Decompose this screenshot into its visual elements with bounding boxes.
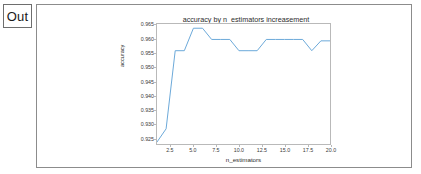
x-tick-label: 5.0: [189, 147, 196, 153]
y-tick-label: 0.940: [128, 93, 154, 99]
x-tick-label: 2.5: [166, 147, 173, 153]
x-axis-label: n_estimators: [156, 156, 331, 163]
y-axis-tick-labels: 0.9250.9300.9350.9400.9450.9500.9550.960…: [126, 23, 154, 145]
y-axis-label: accuracy: [119, 45, 125, 67]
x-tick-mark: [308, 145, 309, 147]
line-series-svg: [157, 24, 330, 144]
x-tick-label: 12.5: [257, 147, 267, 153]
y-tick-mark: [154, 67, 156, 68]
y-tick-mark: [154, 139, 156, 140]
y-tick-label: 0.965: [128, 21, 154, 27]
y-tick-mark: [154, 124, 156, 125]
x-tick-mark: [170, 145, 171, 147]
y-tick-mark: [154, 39, 156, 40]
y-tick-mark: [154, 110, 156, 111]
x-tick-label: 10.0: [234, 147, 244, 153]
y-tick-mark: [154, 82, 156, 83]
y-tick-label: 0.925: [128, 136, 154, 142]
output-prompt-label: Out: [3, 4, 32, 28]
y-tick-label: 0.950: [128, 64, 154, 70]
output-panel: accuracy by n_estimators increasement 0.…: [36, 4, 412, 168]
y-tick-label: 0.960: [128, 36, 154, 42]
x-tick-mark: [239, 145, 240, 147]
x-tick-mark: [331, 145, 332, 147]
y-tick-label: 0.930: [128, 121, 154, 127]
accuracy-line: [157, 28, 330, 142]
y-tick-mark: [154, 53, 156, 54]
y-tick-mark: [154, 24, 156, 25]
x-tick-label: 7.5: [212, 147, 219, 153]
x-tick-mark: [285, 145, 286, 147]
y-tick-label: 0.935: [128, 107, 154, 113]
x-tick-label: 15.0: [280, 147, 290, 153]
x-tick-mark: [262, 145, 263, 147]
matplotlib-figure: accuracy by n_estimators increasement 0.…: [37, 5, 413, 169]
x-tick-label: 20.0: [326, 147, 336, 153]
x-tick-mark: [216, 145, 217, 147]
y-tick-label: 0.945: [128, 79, 154, 85]
y-tick-label: 0.955: [128, 50, 154, 56]
x-tick-label: 17.5: [303, 147, 313, 153]
plot-axes: [156, 23, 331, 145]
x-tick-mark: [193, 145, 194, 147]
y-tick-mark: [154, 96, 156, 97]
